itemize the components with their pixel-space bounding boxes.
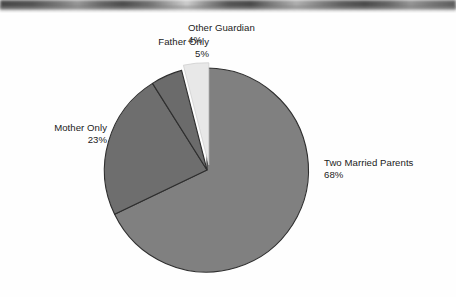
pie-label-mother-only-pct: 23% [54,134,107,146]
pie-label-other-guardian-name: Other Guardian [188,22,255,33]
pie-label-two-married-parents: Two Married Parents 68% [324,157,413,182]
pie-chart-figure: Two Married Parents 68% Mother Only 23% … [0,0,456,297]
pie-label-father-only-pct: 5% [158,48,209,60]
pie-label-two-married-parents-name: Two Married Parents [324,157,413,168]
pie-label-mother-only: Mother Only 23% [54,122,107,147]
pie-label-mother-only-name: Mother Only [54,122,107,133]
pie-label-two-married-parents-pct: 68% [324,169,413,181]
pie-label-other-guardian: Other Guardian 4% [188,22,255,47]
pie-label-other-guardian-pct: 4% [188,34,255,46]
